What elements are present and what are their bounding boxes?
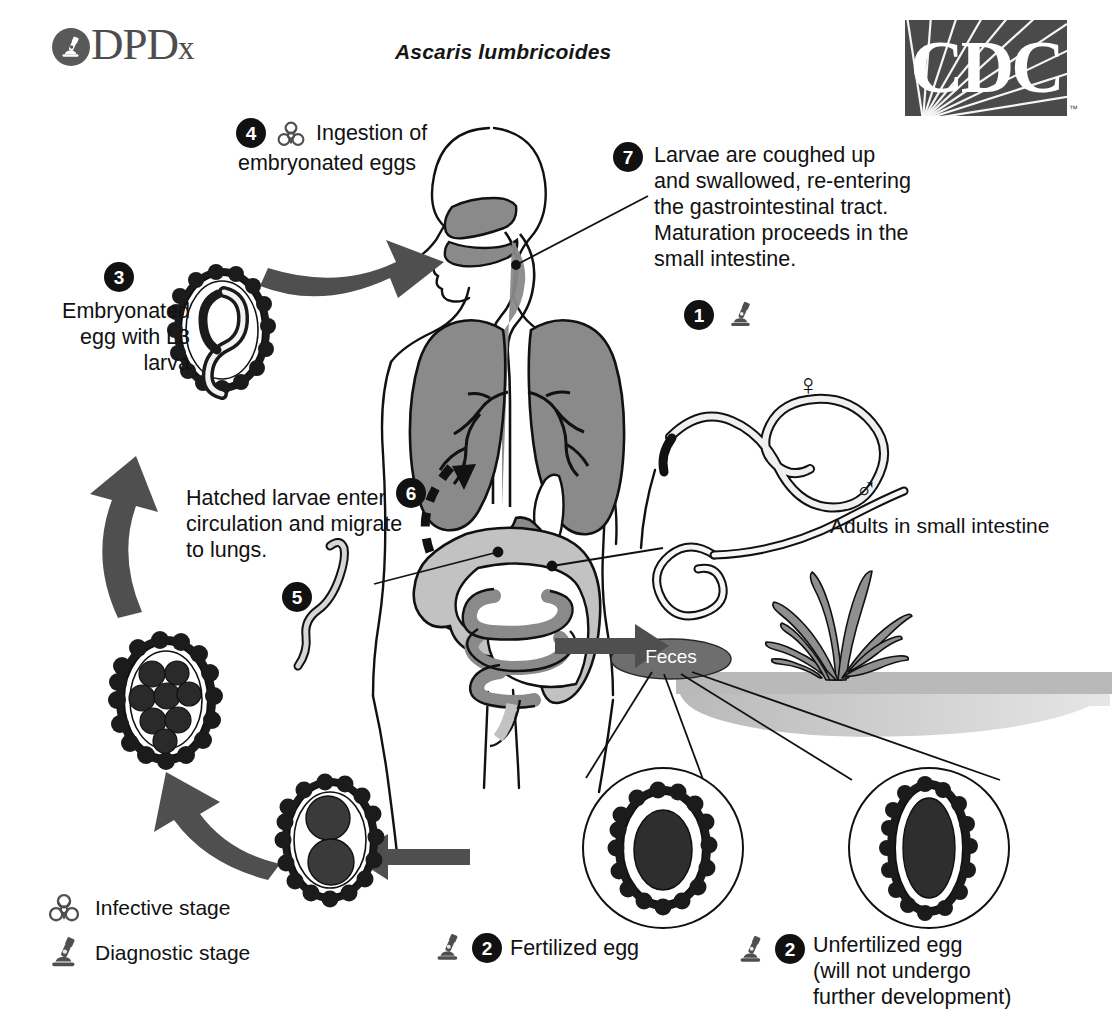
feces-label: Feces (631, 646, 711, 668)
egg-multicell (108, 631, 223, 770)
step-badge-2-unfertilized: 2 (775, 934, 805, 964)
step-6-line2: circulation and migrate (186, 511, 436, 537)
soil-ground (676, 672, 1112, 737)
egg-fertilized-circle (583, 768, 743, 928)
legend-label-diagnostic: Diagnostic stage (95, 941, 250, 965)
legend-label-infective: Infective stage (95, 896, 230, 920)
microscope-icon (432, 932, 464, 964)
step-7-text: Larvae are coughed up and swallowed, re-… (654, 142, 911, 272)
step-4-block: 4 Ingestion of embryonated eggs (236, 118, 486, 176)
legend-item-diagnostic: Diagnostic stage (46, 930, 306, 975)
step-3-line2: egg with L3 (10, 324, 190, 350)
step-7-line5: small intestine. (654, 246, 911, 272)
step-badge-3: 3 (104, 262, 134, 292)
step-badge-5: 5 (282, 582, 312, 612)
step-badge-4: 4 (236, 118, 266, 148)
egg-unfertilized-circle (849, 768, 1009, 928)
unfertilized-line2: (will not undergo (813, 958, 1011, 984)
microscope-icon (735, 934, 767, 966)
step-7-line3: the gastrointestinal tract. (654, 194, 911, 220)
step-7-line1: Larvae are coughed up (654, 142, 911, 168)
arrow-ingestion (260, 240, 444, 298)
step-badge-1: 1 (684, 300, 714, 330)
arrow-egg-embryonate (90, 456, 158, 618)
male-symbol: ♂ (855, 472, 878, 506)
biohazard-icon (46, 890, 82, 926)
step-4-text-line2: embryonated eggs (238, 150, 486, 176)
female-symbol: ♀ (797, 368, 820, 402)
lifecycle-diagram: DPDx Ascaris lumbricoides CDC ™ (0, 0, 1115, 1034)
step-badge-6: 6 (396, 478, 426, 508)
step-badge-2-fertilized: 2 (472, 933, 502, 963)
unfertilized-line1: Unfertilized egg (813, 932, 1011, 958)
step-3-line3: larva (10, 350, 190, 376)
microscope-icon (46, 935, 82, 971)
step-3-line1: Embryonated (10, 298, 190, 324)
legend: Infective stage Diagnostic stage (46, 885, 306, 975)
step-badge-7: 7 (613, 142, 643, 172)
step-4-text-line1: Ingestion of (316, 118, 427, 146)
step-7-line4: Maturation proceeds in the (654, 220, 911, 246)
step-7-line2: and swallowed, re-entering (654, 168, 911, 194)
step-7-block: 7 Larvae are coughed up and swallowed, r… (613, 142, 913, 272)
arrow-egg-develop (154, 772, 280, 880)
adults-caption: Adults in small intestine (830, 514, 1049, 538)
unfertilized-egg-label: Unfertilized egg (will not undergo furth… (813, 932, 1011, 1010)
legend-item-infective: Infective stage (46, 885, 306, 930)
fertilized-egg-caption: 2 Fertilized egg (432, 932, 639, 964)
biohazard-icon (275, 118, 307, 150)
fertilized-egg-label: Fertilized egg (510, 935, 639, 961)
unfertilized-egg-caption: 2 Unfertilized egg (will not undergo fur… (735, 932, 1011, 1010)
unfertilized-line3: further development) (813, 984, 1011, 1010)
step-3-block: 3 Embryonated egg with L3 larva (10, 262, 190, 376)
microscope-icon (726, 300, 756, 330)
grass-plant (766, 571, 912, 680)
step-6-line3: to lungs. (186, 537, 436, 563)
step-1-marker: 1 (684, 300, 756, 330)
step-3-text: Embryonated egg with L3 larva (10, 298, 190, 376)
